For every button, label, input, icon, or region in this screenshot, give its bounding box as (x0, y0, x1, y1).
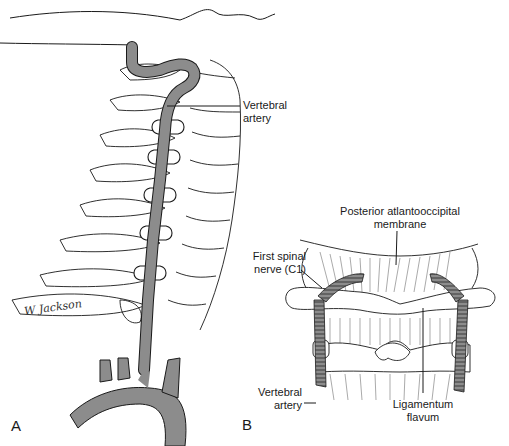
vertebral-artery-b-right (454, 300, 468, 392)
label-line: nerve (C1) (240, 263, 306, 276)
label-line: flavum (390, 411, 456, 424)
leader-line-membrane (396, 231, 397, 265)
label-line: Vertebral (243, 99, 287, 112)
label-vertebral-artery-b: Vertebral artery (240, 386, 302, 412)
label-line: artery (240, 399, 302, 412)
aortic-arch-icon (70, 387, 186, 446)
panel-letter-b: B (242, 417, 252, 433)
label-line: Vertebral (240, 386, 302, 399)
label-ligamentum-flavum: Ligamentum flavum (390, 398, 456, 424)
label-posterior-atlantooccipital-membrane: Posterior atlantooccipital membrane (340, 205, 460, 231)
label-line: Posterior atlantooccipital (340, 205, 460, 218)
anatomy-figure: Vertebral artery Posterior atlantooccipi… (0, 0, 509, 446)
label-vertebral-artery-a: Vertebral artery (243, 99, 287, 125)
label-line: artery (243, 112, 287, 125)
vertebral-artery-b-left (314, 300, 326, 387)
panel-letter-a: A (11, 418, 21, 434)
label-first-spinal-nerve: First spinal nerve (C1) (240, 250, 306, 276)
label-line: membrane (340, 218, 460, 231)
label-line: Ligamentum (390, 398, 456, 411)
label-line: First spinal (240, 250, 306, 263)
